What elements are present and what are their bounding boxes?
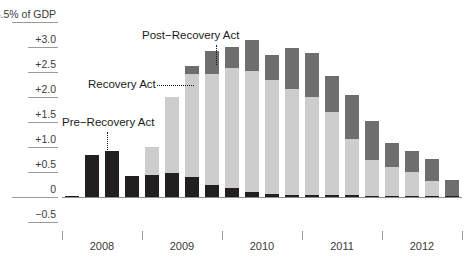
bar-segment-recovery — [425, 181, 439, 196]
annotation-pre-recovery-act: Pre−Recovery Act — [62, 116, 154, 128]
bar-column — [205, 51, 219, 197]
plot-area — [62, 0, 462, 267]
bar-column — [125, 176, 139, 197]
bar-column — [345, 95, 359, 197]
bar-segment-recovery — [325, 112, 339, 195]
bar-segment-recovery — [145, 147, 159, 175]
bar-segment-pre-recovery — [285, 195, 299, 198]
x-axis-tick — [62, 231, 63, 240]
y-axis-tick-rule — [28, 122, 58, 123]
y-axis-tick: +1.0 — [0, 133, 62, 148]
bar-column — [405, 151, 419, 198]
bar-segment-pre-recovery — [85, 155, 99, 198]
y-axis-tick-label: +1.0 — [35, 134, 56, 145]
y-axis-tick: +2.5 — [0, 58, 62, 73]
bar-column — [245, 40, 259, 197]
bar-segment-pre-recovery — [65, 196, 79, 198]
bar-segment-post-recovery — [285, 48, 299, 89]
bar-column — [85, 155, 99, 198]
leader-recovery-act — [157, 85, 194, 86]
bar-segment-pre-recovery — [225, 188, 239, 197]
bar-segment-recovery — [385, 167, 399, 196]
bar-segment-post-recovery — [185, 66, 199, 74]
x-axis-label-2010: 2010 — [223, 240, 301, 252]
y-axis-tick-label: +0.5 — [35, 159, 56, 170]
bar-segment-pre-recovery — [105, 151, 119, 197]
bar-column — [305, 53, 319, 197]
y-axis-tick-rule — [28, 147, 58, 148]
bar-segment-pre-recovery — [145, 175, 159, 198]
bar-segment-pre-recovery — [405, 196, 419, 198]
bar-segment-pre-recovery — [445, 196, 459, 197]
bar-segment-recovery — [365, 160, 379, 196]
annotation-post-recovery-act: Post−Recovery Act — [142, 29, 239, 41]
bar-column — [385, 143, 399, 198]
bar-column — [445, 180, 459, 198]
y-axis-tick-rule — [28, 97, 58, 98]
y-axis-tick: +2.0 — [0, 83, 62, 98]
gdp-contribution-chart: +3.5% of GDP+3.0+2.5+2.0+1.5+1.0+0.50−0.… — [0, 0, 475, 267]
y-axis-tick-label: −0.5 — [35, 209, 56, 220]
bar-segment-pre-recovery — [205, 185, 219, 198]
y-axis-tick-label: +2.0 — [35, 84, 56, 95]
x-axis-label-2012: 2012 — [383, 240, 461, 252]
bar-segment-recovery — [305, 97, 319, 195]
y-axis-tick: +3.5% of GDP — [0, 8, 62, 23]
x-axis-tick — [302, 231, 303, 240]
bar-segment-post-recovery — [265, 55, 279, 80]
bar-column — [225, 47, 239, 197]
bar-segment-pre-recovery — [305, 195, 319, 198]
bar-segment-post-recovery — [425, 159, 439, 182]
x-axis-tick — [382, 231, 383, 240]
y-axis-tick-rule — [28, 72, 58, 73]
y-axis-tick-rule — [28, 47, 58, 48]
bar-segment-pre-recovery — [325, 195, 339, 198]
y-axis-tick-label: +3.5% of GDP — [0, 9, 56, 20]
bar-segment-recovery — [285, 89, 299, 195]
bar-segment-post-recovery — [385, 143, 399, 167]
zero-baseline — [62, 197, 462, 198]
bar-segment-post-recovery — [325, 76, 339, 112]
y-axis-tick-rule — [28, 172, 58, 173]
bar-column — [105, 151, 119, 197]
y-axis-tick-rule — [12, 197, 58, 198]
bar-segment-recovery — [225, 68, 239, 188]
y-axis-tick: +3.0 — [0, 33, 62, 48]
bar-segment-post-recovery — [345, 95, 359, 139]
y-axis-tick: 0 — [0, 183, 62, 198]
bar-column — [265, 55, 279, 197]
bar-segment-post-recovery — [365, 121, 379, 160]
bar-column — [65, 196, 79, 198]
bar-segment-recovery — [185, 74, 199, 178]
bar-segment-post-recovery — [305, 53, 319, 97]
bar-column — [165, 97, 179, 197]
bar-segment-pre-recovery — [385, 196, 399, 198]
bar-segment-pre-recovery — [425, 196, 439, 197]
bar-column — [145, 147, 159, 197]
x-axis-tick — [462, 231, 463, 240]
y-axis-tick: +0.5 — [0, 158, 62, 173]
leader-post-recovery-act — [216, 45, 217, 65]
y-axis-tick-rule — [28, 222, 58, 223]
bar-segment-pre-recovery — [245, 192, 259, 197]
annotation-recovery-act: Recovery Act — [88, 78, 156, 90]
y-axis-tick-label: +1.5 — [35, 109, 56, 120]
bar-segment-post-recovery — [225, 47, 239, 68]
bar-segment-pre-recovery — [125, 176, 139, 197]
bar-column — [365, 121, 379, 198]
x-axis-tick — [142, 231, 143, 240]
bar-segment-recovery — [165, 97, 179, 173]
y-axis-tick-label: +3.0 — [35, 34, 56, 45]
bar-segment-pre-recovery — [165, 173, 179, 197]
x-axis-label-2008: 2008 — [63, 240, 141, 252]
x-axis-label-2009: 2009 — [143, 240, 221, 252]
bar-column — [325, 76, 339, 197]
y-axis-tick-label: +2.5 — [35, 59, 56, 70]
bar-segment-post-recovery — [245, 40, 259, 71]
bar-segment-pre-recovery — [345, 195, 359, 197]
y-axis-tick-rule — [12, 22, 58, 23]
bar-segment-pre-recovery — [185, 177, 199, 197]
y-axis-tick-label: 0 — [50, 184, 56, 195]
y-axis-tick: +1.5 — [0, 108, 62, 123]
bar-column — [425, 159, 439, 198]
